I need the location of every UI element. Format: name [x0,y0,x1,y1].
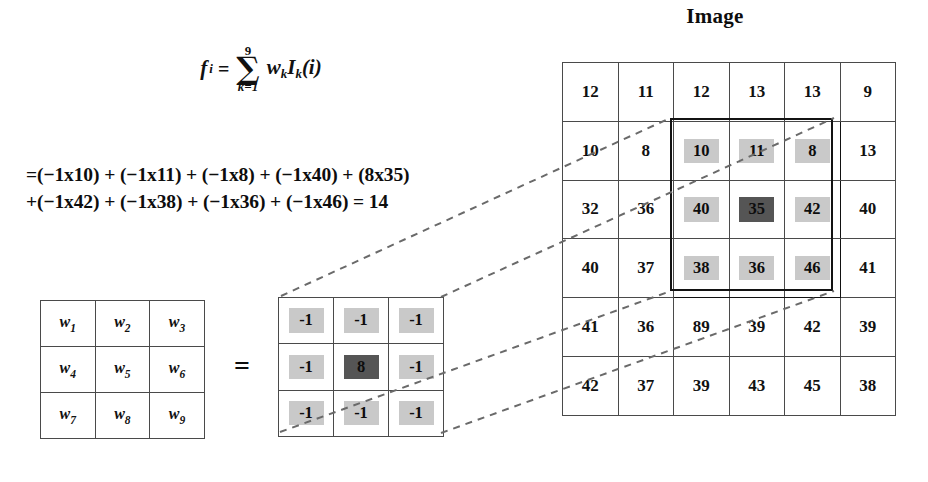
image-pixel-cell: 36 [618,180,674,239]
weight-cell-subscript: 2 [125,322,131,334]
image-pixel-value: 9 [864,82,873,101]
image-pixel-cell: 41 [563,298,619,357]
image-pixel-value: 36 [739,256,774,280]
kernel-matrix-row: -18-1 [279,344,444,390]
image-pixel-value: 12 [582,82,599,101]
image-pixel-grid-body: 1211121313910810118133236403542404037383… [563,63,896,416]
image-pixel-value: 11 [739,139,774,163]
image-pixel-cell: 38 [840,356,896,415]
image-pixel-value: 35 [739,197,774,221]
image-pixel-value: 42 [804,317,821,336]
image-grid-row: 323640354240 [563,180,896,239]
kernel-cell-value: 8 [344,355,379,379]
sigma-group: 9 ∑ k=1 [236,44,259,93]
image-pixel-cell: 10 [674,121,730,180]
expansion-line-1: =(−1x10) + (−1x11) + (−1x8) + (−1x40) + … [26,164,410,186]
image-pixel-cell: 41 [840,239,896,298]
image-pixel-value: 37 [637,376,654,395]
formula-lhs-variable: f [200,58,207,79]
sigma-icon: ∑ [236,56,259,80]
weight-cell-w5: w5 [95,347,150,393]
image-pixel-cell: 32 [563,180,619,239]
weight-cell-base: w [169,359,180,376]
image-pixel-value: 10 [684,139,719,163]
image-pixel-value: 36 [637,317,654,336]
image-pixel-cell: 39 [729,298,785,357]
kernel-cell-value: -1 [344,401,379,425]
image-pixel-grid: 1211121313910810118133236403542404037383… [562,62,896,416]
weight-cell-subscript: 4 [70,368,76,380]
image-pixel-value: 42 [795,197,830,221]
weight-cell-subscript: 5 [125,368,131,380]
sigma-lower-limit: k=1 [238,80,258,93]
image-pixel-cell: 10 [563,121,619,180]
image-pixel-cell: 13 [729,63,785,122]
summand-argument: (i) [302,55,322,79]
image-grid-row: 423739434538 [563,356,896,415]
weight-cell-base: w [114,405,125,422]
image-pixel-cell: 13 [785,63,841,122]
image-pixel-cell: 38 [674,239,730,298]
weight-cell-base: w [60,405,71,422]
weight-cell-w2: w2 [95,301,150,347]
image-pixel-value: 11 [638,82,654,101]
weight-cell-base: w [114,359,125,376]
image-pixel-cell: 11 [729,121,785,180]
kernel-cell-value: -1 [399,355,434,379]
image-pixel-value: 38 [859,376,876,395]
kernel-matrix: -1-1-1-18-1-1-1-1 [278,297,444,437]
image-pixel-cell: 9 [840,63,896,122]
weight-cell-subscript: 9 [179,414,185,426]
image-pixel-cell: 39 [674,356,730,415]
weight-matrix-row: w7w8w9 [41,393,205,439]
image-pixel-value: 13 [804,82,821,101]
formula-lhs-subscript: i [209,62,213,75]
image-pixel-cell: 42 [785,298,841,357]
weight-matrix-row: w1w2w3 [41,301,205,347]
weight-cell-w7: w7 [41,393,96,439]
image-pixel-cell: 42 [563,356,619,415]
summand-intensity: I [287,55,295,79]
image-pixel-value: 8 [795,139,830,163]
image-pixel-value: 41 [859,258,876,277]
formula-equals: = [218,59,229,79]
weight-matrix-row: w4w5w6 [41,347,205,393]
kernel-cell: 8 [334,344,389,390]
weight-cell-w3: w3 [150,301,205,347]
image-pixel-value: 36 [637,199,654,218]
formula-block: fi = 9 ∑ k=1 wkIk(i) =(−1x10) + (−1x11) … [26,44,496,106]
image-pixel-cell: 45 [785,356,841,415]
image-pixel-value: 12 [693,82,710,101]
weight-matrix-body: w1w2w3w4w5w6w7w8w9 [41,301,205,439]
image-pixel-value: 40 [582,258,599,277]
image-pixel-cell: 37 [618,239,674,298]
matrix-equals-sign: = [222,350,262,382]
kernel-matrix-row: -1-1-1 [279,298,444,344]
kernel-cell-value: -1 [289,401,324,425]
kernel-cell: -1 [279,298,334,344]
weight-cell-subscript: 8 [125,414,131,426]
image-pixel-value: 37 [637,258,654,277]
summand-weight: w [267,55,281,79]
image-pixel-cell: 43 [729,356,785,415]
kernel-matrix-body: -1-1-1-18-1-1-1-1 [279,298,444,437]
weight-cell-subscript: 1 [70,322,76,334]
weight-cell-base: w [169,405,180,422]
image-pixel-value: 10 [582,141,599,160]
image-pixel-cell: 39 [840,298,896,357]
image-pixel-cell: 89 [674,298,730,357]
image-grid-row: 1081011813 [563,121,896,180]
kernel-cell: -1 [389,298,444,344]
kernel-cell-value: -1 [289,308,324,332]
image-pixel-value: 89 [693,317,710,336]
weight-cell-w8: w8 [95,393,150,439]
kernel-cell: -1 [389,390,444,436]
kernel-cell-value: -1 [399,308,434,332]
image-pixel-cell: 46 [785,239,841,298]
image-pixel-cell: 11 [618,63,674,122]
summation-formula: fi = 9 ∑ k=1 wkIk(i) [26,44,496,106]
weight-cell-w4: w4 [41,347,96,393]
image-pixel-value: 43 [748,376,765,395]
image-pixel-cell: 40 [840,180,896,239]
image-pixel-cell: 35 [729,180,785,239]
